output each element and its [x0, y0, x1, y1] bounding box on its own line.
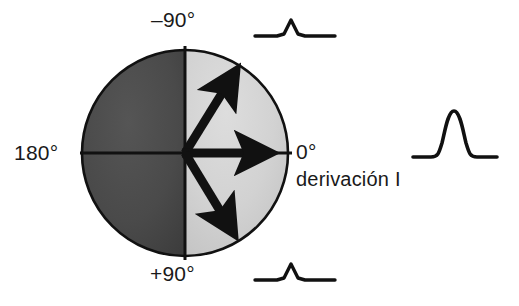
waveform-bottom	[253, 256, 337, 290]
waveform-top	[253, 12, 337, 46]
axis-label-plus-90: +90°	[150, 262, 195, 286]
axis-label-180: 180°	[14, 141, 58, 165]
axis-label-minus-90: –90°	[151, 8, 195, 32]
waveform-top-trace	[253, 12, 337, 46]
axis-label-0: 0°	[296, 140, 316, 164]
waveform-bottom-trace	[253, 256, 337, 290]
waveform-right-trace	[411, 105, 499, 167]
waveform-right	[411, 105, 499, 167]
lead-label: derivación I	[296, 168, 401, 191]
cardiac-axis-diagram: –90° +90° 180° 0° derivación I	[0, 0, 519, 306]
